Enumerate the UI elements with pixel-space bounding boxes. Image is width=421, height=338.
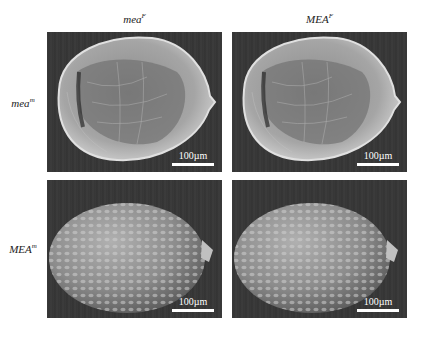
- scale-bar: 100µm: [172, 296, 214, 312]
- column-label-sup: F: [142, 12, 146, 20]
- row-label-sup: m: [32, 242, 37, 250]
- row-label-MEA-m: MEAm: [0, 242, 46, 255]
- column-label-text: mea: [123, 13, 141, 25]
- scale-bar-line: [357, 309, 399, 312]
- scale-bar: 100µm: [357, 150, 399, 166]
- sem-panel-bottom-left: 100µm: [47, 180, 222, 318]
- column-label-sup: F: [329, 12, 333, 20]
- scale-bar: 100µm: [357, 296, 399, 312]
- scale-bar-label: 100µm: [357, 296, 399, 307]
- row-label-mea-m: meam: [0, 96, 46, 109]
- scale-bar-label: 100µm: [357, 150, 399, 161]
- sem-panel-bottom-right: 100µm: [232, 180, 407, 318]
- scale-bar-label: 100µm: [172, 296, 214, 307]
- scale-bar: 100µm: [172, 150, 214, 166]
- scale-bar-label: 100µm: [172, 150, 214, 161]
- sem-panel-top-right: 100µm: [232, 32, 407, 172]
- row-label-text: mea: [11, 97, 29, 109]
- column-label-mea-f: meaF: [47, 12, 222, 25]
- column-label-text: MEA: [306, 13, 329, 25]
- scale-bar-line: [172, 309, 214, 312]
- row-label-text: MEA: [9, 243, 32, 255]
- row-label-sup: m: [30, 96, 35, 104]
- scale-bar-line: [357, 163, 399, 166]
- column-label-MEA-f: MEAF: [232, 12, 407, 25]
- scale-bar-line: [172, 163, 214, 166]
- sem-panel-top-left: 100µm: [47, 32, 222, 172]
